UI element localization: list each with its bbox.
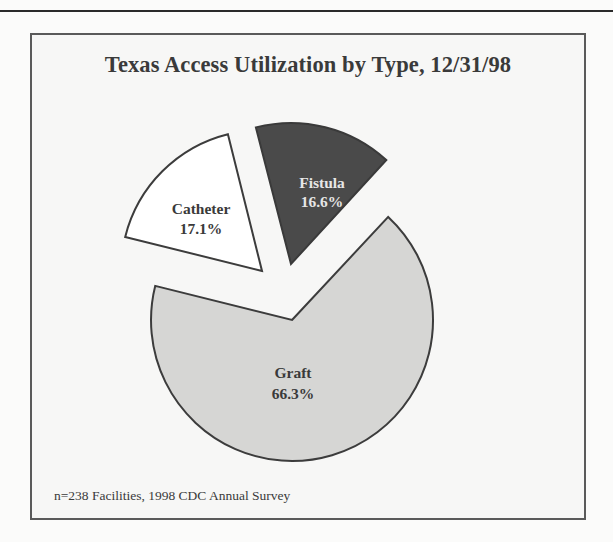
fistula-label: Fistula <box>299 174 345 191</box>
chart-footnote: n=238 Facilities, 1998 CDC Annual Survey <box>54 488 290 504</box>
graft-pct: 66.3% <box>272 385 315 402</box>
pie-chart: Fistula 16.6% Catheter 17.1% Graft 66.3% <box>0 0 613 542</box>
graft-label: Graft <box>274 364 312 381</box>
catheter-pct: 17.1% <box>180 220 223 237</box>
catheter-label: Catheter <box>172 200 231 217</box>
fistula-pct: 16.6% <box>301 193 344 210</box>
